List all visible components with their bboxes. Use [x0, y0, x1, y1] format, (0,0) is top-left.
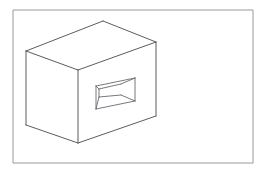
drawing-canvas: [0, 0, 268, 173]
box-solid: [26, 21, 156, 143]
line-drawing: [0, 0, 268, 173]
